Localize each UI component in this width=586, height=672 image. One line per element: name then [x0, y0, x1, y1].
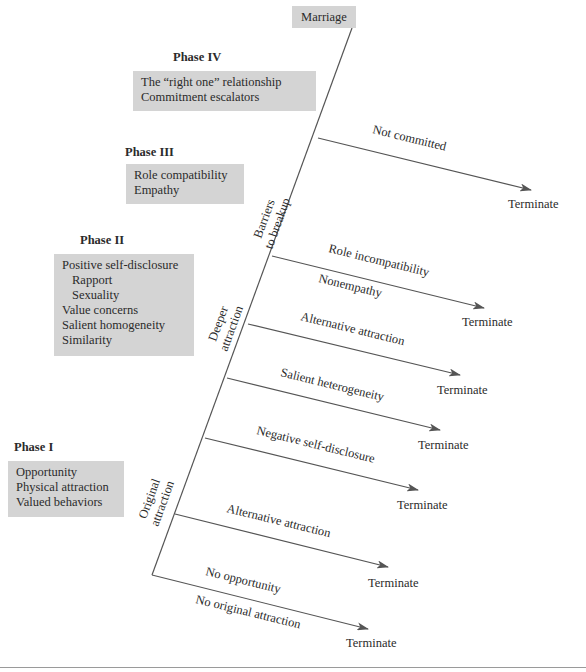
phase-4-box: The “right one” relationship Commitment … [133, 71, 316, 111]
terminate-label-salient-heterogeneity: Terminate [418, 438, 469, 453]
phase-3-title: Phase III [125, 145, 174, 160]
phase-2-box: Positive self-disclosure Rapport Sexuali… [54, 254, 194, 356]
phase-2-subitem: Sexuality [62, 288, 186, 303]
terminate-label-no-opportunity: Terminate [346, 636, 397, 651]
terminate-label-not-committed: Terminate [508, 197, 559, 212]
phase-3-item: Empathy [134, 183, 236, 198]
phase-1-box: Opportunity Physical attraction Valued b… [8, 461, 124, 517]
terminate-label-negative-self-disclosure: Terminate [397, 498, 448, 513]
phase-2-subitem: Rapport [62, 273, 186, 288]
phase-2-item: Value concerns [62, 303, 186, 318]
phase-4-item: Commitment escalators [141, 90, 308, 105]
phase-3-box: Role compatibility Empathy [126, 164, 244, 204]
branch-label-not-committed: Not committed [371, 122, 448, 154]
phase-1-item: Valued behaviors [16, 495, 116, 510]
relationship-filter-diagram: Not committed Role incompatibility Nonem… [0, 0, 586, 672]
marriage-node: Marriage [292, 6, 356, 28]
branch-label-alternative-attraction-2: Alternative attraction [299, 309, 407, 348]
phase-1-item: Physical attraction [16, 480, 116, 495]
phase-1-title: Phase I [14, 440, 53, 455]
phase-4-title: Phase IV [173, 50, 221, 65]
phase-2-item: Similarity [62, 333, 186, 348]
phase-3-item: Role compatibility [134, 168, 236, 183]
phase-2-item: Positive self-disclosure [62, 258, 186, 273]
bottom-rule [0, 667, 586, 668]
terminate-label-role-incompatibility: Terminate [462, 315, 513, 330]
branch-label-no-original-attraction: No original attraction [194, 592, 303, 631]
phase-2-item: Salient homogeneity [62, 318, 186, 333]
branch-label-salient-heterogeneity: Salient heterogeneity [279, 365, 386, 404]
phase-1-item: Opportunity [16, 465, 116, 480]
phase-4-item: The “right one” relationship [141, 75, 308, 90]
phase-2-title: Phase II [80, 233, 124, 248]
branch-label-negative-self-disclosure: Negative self-disclosure [255, 423, 376, 465]
terminate-label-alternative-attraction-1: Terminate [368, 576, 419, 591]
terminate-label-alternative-attraction-2: Terminate [437, 383, 488, 398]
branch-label-alternative-attraction-1: Alternative attraction [225, 501, 333, 540]
